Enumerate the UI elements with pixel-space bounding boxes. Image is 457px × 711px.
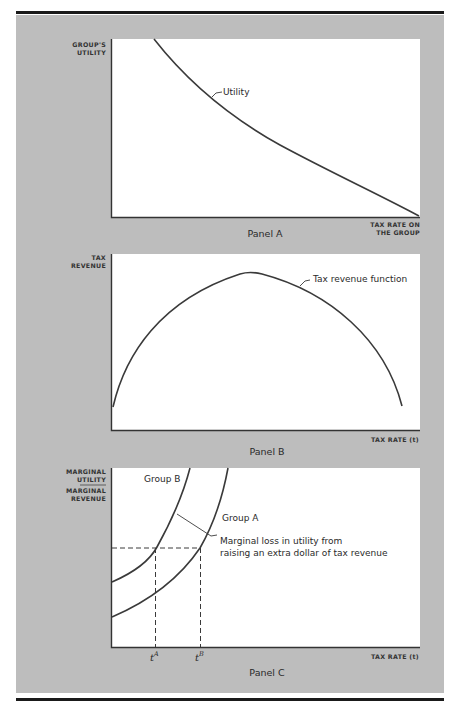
panel-b-ylabel-line1: TAX bbox=[92, 254, 106, 261]
panel-a-xlabel-line1: TAX RATE ON bbox=[370, 221, 420, 228]
panel-b-xlabel: TAX RATE (t) bbox=[371, 436, 419, 443]
panel-c-ylabel-denominator-line2: REVENUE bbox=[71, 495, 106, 502]
utility-curve-label: Utility bbox=[223, 87, 250, 97]
panel-b-title: Panel B bbox=[249, 446, 284, 457]
panel-b-ylabel-line2: REVENUE bbox=[71, 262, 106, 269]
panel-a-title: Panel A bbox=[247, 228, 283, 239]
panel-b: Tax revenue function TAX REVENUE TAX RAT… bbox=[71, 254, 420, 457]
panel-c-ylabel-numerator-line1: MARGINAL bbox=[66, 468, 106, 475]
panel-a-ylabel-line2: UTILITY bbox=[77, 49, 106, 56]
figure-charts: Utility GROUP'S UTILITY TAX RATE ON THE … bbox=[0, 0, 457, 711]
tax-revenue-curve-label: Tax revenue function bbox=[312, 274, 407, 284]
panel-a: Utility GROUP'S UTILITY TAX RATE ON THE … bbox=[72, 39, 420, 239]
panel-c-xlabel: TAX RATE (t) bbox=[371, 653, 419, 660]
panel-a-xlabel-line2: THE GROUP bbox=[376, 229, 420, 236]
panel-a-plot-area bbox=[111, 39, 420, 217]
panel-a-ylabel-line1: GROUP'S bbox=[72, 41, 106, 48]
panel-c-ylabel-numerator-line2: UTILITY bbox=[77, 476, 106, 483]
panel-c-title: Panel C bbox=[249, 667, 285, 678]
tick-label-ta: tA bbox=[150, 650, 159, 663]
panel-c: Group B Group A Marginal loss in utility… bbox=[66, 468, 420, 678]
group-a-label: Group A bbox=[222, 513, 259, 523]
marginal-loss-annotation-line1: Marginal loss in utility from bbox=[220, 536, 342, 546]
group-b-label: Group B bbox=[144, 474, 180, 484]
tick-label-tb: tB bbox=[195, 650, 204, 663]
panel-c-ylabel-denominator-line1: MARGINAL bbox=[66, 487, 106, 494]
marginal-loss-annotation-line2: raising an extra dollar of tax revenue bbox=[220, 548, 388, 558]
